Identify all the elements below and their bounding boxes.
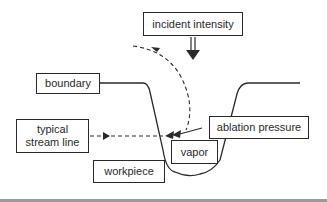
stream-line-arrowhead <box>103 132 110 140</box>
boundary-label: boundary <box>36 73 100 94</box>
workpiece-text: workpiece <box>104 165 154 178</box>
workpiece-label: workpiece <box>93 160 165 183</box>
boundary-text: boundary <box>45 77 91 90</box>
diagram-canvas: incident intensity boundary typical stre… <box>0 0 327 202</box>
typical-stream-line-text-2: stream line <box>26 136 80 149</box>
reflected-stream-dashed <box>133 46 190 130</box>
reflected-stream-arrowhead <box>151 47 160 52</box>
ablation-pressure-label: ablation pressure <box>209 116 309 139</box>
ablation-pressure-text: ablation pressure <box>217 121 301 134</box>
typical-stream-line-text-1: typical <box>37 123 68 136</box>
bottom-rule <box>0 199 327 202</box>
incident-intensity-text: incident intensity <box>152 18 233 31</box>
incident-intensity-label: incident intensity <box>143 12 243 36</box>
vapor-label: vapor <box>171 140 218 164</box>
typical-stream-line-label: typical stream line <box>16 119 89 153</box>
ablation-pressure-arrows <box>165 128 202 139</box>
incident-intensity-arrow <box>186 37 200 60</box>
vapor-text: vapor <box>181 146 209 159</box>
